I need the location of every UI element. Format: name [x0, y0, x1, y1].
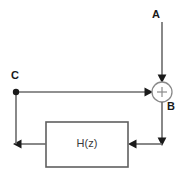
- arrowhead-into-c-corner: [13, 140, 22, 149]
- block-diagram-canvas: A B C H(z): [0, 0, 183, 177]
- wire-a-to-sum: [158, 22, 167, 83]
- signal-label-a: A: [152, 9, 160, 20]
- wire-hz-to-c: [13, 93, 46, 148]
- summing-junction: [152, 82, 172, 102]
- hz-block-label: H(z): [46, 138, 128, 149]
- arrowhead-into-hz-right: [128, 140, 137, 149]
- signal-label-c: C: [11, 70, 19, 81]
- diagram-vector-layer: [0, 0, 183, 177]
- signal-label-b: B: [167, 101, 175, 112]
- wire-c-to-sum: [16, 88, 153, 97]
- wire-sum-to-hz: [128, 102, 166, 148]
- branch-node-dot-c: [13, 89, 19, 95]
